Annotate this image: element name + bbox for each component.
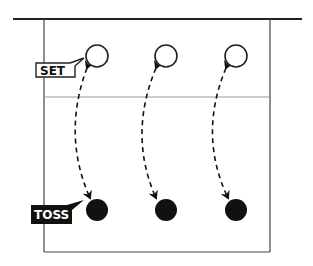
- setter-ball-icon: [225, 45, 247, 67]
- set-label: SET: [36, 58, 84, 78]
- tosser-ball-icon: [225, 199, 247, 221]
- pass-arrow-3: [212, 68, 228, 198]
- pass-arrow-1: [75, 68, 90, 198]
- pass-arrow-2: [142, 68, 156, 198]
- set-label-text: SET: [40, 64, 66, 78]
- setter-ball-icon: [86, 45, 108, 67]
- tosser-ball-icon: [86, 199, 108, 221]
- tosser-ball-icon: [155, 199, 177, 221]
- toss-label-text: TOSS: [34, 208, 69, 222]
- setter-ball-icon: [155, 45, 177, 67]
- drill-diagram: SET TOSS: [0, 0, 313, 266]
- toss-label: TOSS: [31, 200, 84, 224]
